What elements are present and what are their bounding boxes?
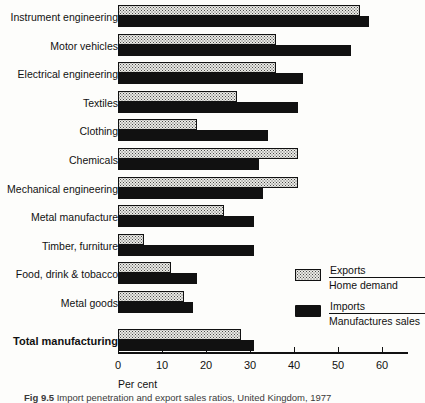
x-axis: 0102030405060 [118,352,408,354]
x-axis-tick-label: 40 [288,359,300,371]
legend-numerator-imports: Imports [329,300,425,314]
x-axis-tick-label: 0 [115,359,121,371]
x-axis-tick-label: 30 [244,359,256,371]
category-label: Electrical engineering [0,61,118,87]
category-label: Instrument engineering [0,4,118,30]
bar-imports [118,273,197,284]
legend-denominator-imports: Manufactures sales [329,314,425,328]
bar-exports [118,291,184,302]
bar-imports [118,130,268,141]
x-axis-tick [382,347,383,352]
legend-numerator-exports: Exports [329,264,425,278]
chart-row: Metal manufacture [0,204,423,230]
legend-denominator-exports: Home demand [329,278,425,292]
imports-swatch-icon [295,305,321,317]
category-label: Textiles [0,90,118,116]
x-axis-tick-label: 60 [376,359,388,371]
bar-imports [118,73,303,84]
x-axis-label: Per cent [118,378,157,390]
bar-imports [118,102,298,113]
chart-row: Instrument engineering [0,4,423,30]
x-axis-tick [206,347,207,352]
x-axis-tick-label: 20 [200,359,212,371]
bar-imports [118,16,369,27]
chart-row: Chemicals [0,147,423,173]
bar-exports [118,34,276,45]
bar-exports [118,329,241,340]
x-axis-tick [250,347,251,352]
chart-row: Timber, furniture [0,233,423,259]
bar-exports [118,205,224,216]
category-label: Motor vehicles [0,33,118,59]
x-axis-tick [162,347,163,352]
chart-row: Motor vehicles [0,33,423,59]
chart-row: Textiles [0,90,423,116]
chart-row: Clothing [0,118,423,144]
bar-imports [118,302,193,313]
category-label: Food, drink & tobacco [0,261,118,287]
category-label: Total manufacturing [0,328,118,354]
x-axis-tick [118,347,119,352]
bar-imports [118,340,254,351]
category-label: Metal manufacture [0,204,118,230]
chart-row: Electrical engineering [0,61,423,87]
bar-imports [118,216,254,227]
bar-imports [118,245,254,256]
legend-fraction-imports: Imports Manufactures sales [329,300,425,328]
legend-fraction-exports: Exports Home demand [329,264,425,292]
bar-exports [118,262,171,273]
figure-caption: Fig 9.5 Import penetration and export sa… [24,392,423,403]
exports-swatch-icon [295,269,321,281]
x-axis-tick-label: 50 [332,359,344,371]
category-label: Clothing [0,118,118,144]
category-label: Chemicals [0,147,118,173]
figure-number: Fig 9.5 [24,392,54,403]
x-axis-tick-label: 10 [156,359,168,371]
x-axis-tick [294,347,295,352]
chart-row: Mechanical engineering [0,176,423,202]
bar-exports [118,234,144,245]
x-axis-tick [338,347,339,352]
bar-exports [118,148,298,159]
bar-exports [118,91,237,102]
category-label: Mechanical engineering [0,176,118,202]
bar-exports [118,119,197,130]
bar-imports [118,159,259,170]
bar-exports [118,177,298,188]
bar-imports [118,188,263,199]
category-label: Timber, furniture [0,233,118,259]
chart-row: Total manufacturing [0,328,423,354]
bar-exports [118,62,276,73]
caption-text: Import penetration and export sales rati… [57,392,332,403]
bar-imports [118,45,351,56]
bar-exports [118,5,360,16]
category-label: Metal goods [0,290,118,316]
